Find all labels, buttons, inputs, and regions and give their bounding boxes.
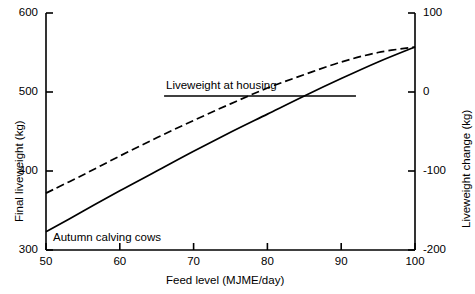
- x-axis-ticks: [46, 243, 415, 250]
- axis-tick-label: 60: [113, 256, 126, 268]
- y-axis-left-ticks: [46, 13, 53, 250]
- axis-tick-label: 600: [19, 7, 38, 19]
- x-axis-title: Feed level (MJME/day): [166, 275, 284, 287]
- axis-tick-label: 0: [423, 86, 429, 98]
- chart-figure: 300400500600 -200-1000100 5060708090100 …: [0, 0, 475, 294]
- chart-series: [46, 47, 415, 232]
- series-line: [46, 47, 415, 232]
- y-axis-left-title: Final liveweight (kg): [14, 120, 26, 222]
- series-line: [46, 47, 415, 193]
- annotation-autumn-calving-cows: Autumn calving cows: [53, 232, 161, 244]
- axis-tick-label: -200: [423, 244, 446, 256]
- axis-tick-label: 500: [19, 86, 38, 98]
- annotation-liveweight-at-housing: Liveweight at housing: [166, 80, 277, 92]
- axis-tick-label: 300: [19, 244, 38, 256]
- axis-tick-label: 90: [335, 256, 348, 268]
- axis-tick-label: 100: [423, 7, 442, 19]
- axis-tick-label: -100: [423, 165, 446, 177]
- axis-tick-label: 80: [261, 256, 274, 268]
- y-axis-right-title: Liveweight change (kg): [461, 110, 473, 228]
- chart-plot-area: [0, 0, 475, 294]
- axis-tick-label: 100: [405, 256, 424, 268]
- axis-tick-label: 70: [187, 256, 200, 268]
- axis-tick-label: 50: [40, 256, 53, 268]
